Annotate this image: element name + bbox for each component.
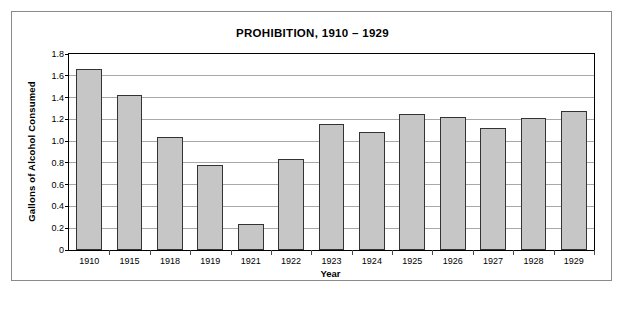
gridline	[69, 119, 594, 120]
x-axis-tick-label: 1929	[564, 256, 584, 266]
y-axis-tick-label: 1.8	[51, 49, 64, 59]
caption-sliver	[14, 297, 574, 307]
x-axis-tick-mark	[190, 250, 191, 255]
y-axis-tick-mark	[65, 75, 69, 76]
x-axis-tick-label: 1918	[160, 256, 180, 266]
x-axis-tick-mark	[513, 250, 514, 255]
x-axis-tick-label: 1919	[200, 256, 220, 266]
x-axis-tick-mark	[311, 250, 312, 255]
x-axis-tick-mark	[594, 250, 595, 255]
y-axis-title: Gallons of Alcohol Consumed	[23, 53, 39, 249]
y-axis-tick-mark	[65, 97, 69, 98]
x-axis-tick-mark	[150, 250, 151, 255]
x-axis-tick-label: 1924	[362, 256, 382, 266]
bar[interactable]	[278, 159, 304, 250]
y-axis-tick-mark	[65, 228, 69, 229]
x-axis-tick-mark	[231, 250, 232, 255]
x-axis-tick-label: 1927	[483, 256, 503, 266]
bar[interactable]	[76, 69, 102, 250]
x-axis-tick-mark	[432, 250, 433, 255]
y-axis-tick-mark	[65, 119, 69, 120]
x-axis-tick-label: 1928	[523, 256, 543, 266]
x-axis-title: Year	[68, 268, 593, 279]
bar[interactable]	[521, 118, 547, 250]
x-axis-tick-mark	[271, 250, 272, 255]
x-axis-tick-label: 1921	[241, 256, 261, 266]
x-axis-tick-label: 1923	[321, 256, 341, 266]
bar[interactable]	[238, 224, 264, 250]
chart-title: PROHIBITION, 1910 – 1929	[12, 27, 613, 39]
y-axis-tick-mark	[65, 206, 69, 207]
y-axis-tick-label: 0.4	[51, 201, 64, 211]
y-axis-tick-mark	[65, 250, 69, 251]
y-axis-tick-label: 0.8	[51, 158, 64, 168]
y-axis-tick-label: 0.2	[51, 223, 64, 233]
bar[interactable]	[399, 114, 425, 250]
y-axis-tick-label: 1.6	[51, 71, 64, 81]
x-axis-tick-label: 1926	[443, 256, 463, 266]
y-axis-tick-mark	[65, 54, 69, 55]
y-axis-tick-mark	[65, 141, 69, 142]
figure-frame: PROHIBITION, 1910 – 1929 Gallons of Alco…	[11, 11, 612, 281]
y-axis-tick-label: 1.2	[51, 114, 64, 124]
bar[interactable]	[197, 165, 223, 250]
x-axis-tick-mark	[554, 250, 555, 255]
y-axis-tick-label: 1.0	[51, 136, 64, 146]
bar[interactable]	[561, 111, 587, 250]
x-axis-tick-label: 1915	[120, 256, 140, 266]
x-axis-tick-mark	[352, 250, 353, 255]
bar[interactable]	[319, 124, 345, 250]
x-axis-tick-label: 1922	[281, 256, 301, 266]
gridline	[69, 75, 594, 76]
chart-page: PROHIBITION, 1910 – 1929 Gallons of Alco…	[0, 0, 625, 312]
y-axis-tick-label: 0	[59, 245, 64, 255]
bar[interactable]	[157, 137, 183, 250]
y-axis-tick-mark	[65, 184, 69, 185]
bar[interactable]	[480, 128, 506, 250]
y-axis-tick-mark	[65, 162, 69, 163]
x-axis-tick-mark	[392, 250, 393, 255]
bar[interactable]	[117, 95, 143, 250]
gridline	[69, 97, 594, 98]
x-axis-tick-label: 1910	[79, 256, 99, 266]
y-axis-title-text: Gallons of Alcohol Consumed	[26, 81, 37, 222]
bar[interactable]	[359, 132, 385, 250]
x-axis-tick-mark	[109, 250, 110, 255]
bar[interactable]	[440, 117, 466, 250]
x-axis-tick-mark	[473, 250, 474, 255]
y-axis-tick-label: 0.6	[51, 180, 64, 190]
y-axis-tick-label: 1.4	[51, 93, 64, 103]
plot-area: 1.81.61.41.21.00.80.60.40.20191019151918…	[68, 53, 595, 251]
x-axis-tick-label: 1925	[402, 256, 422, 266]
